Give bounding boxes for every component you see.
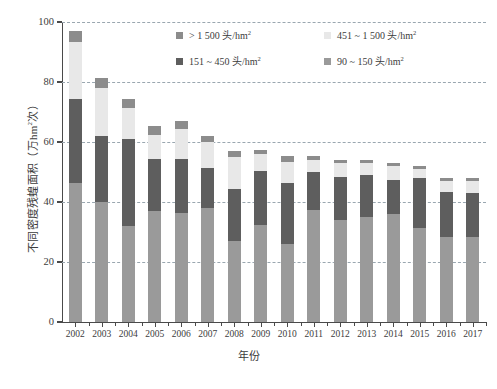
chart-legend: > 1 500 头/hm2451 ~ 1 500 头/hm2151 ~ 450 … — [176, 30, 446, 78]
bar-segment — [254, 150, 267, 155]
bar-segment — [281, 156, 294, 162]
legend-swatch-icon — [176, 58, 183, 65]
x-tick-label: 2003 — [92, 330, 111, 340]
x-tick-mark-minor — [142, 322, 143, 326]
x-tick-label: 2004 — [119, 330, 138, 340]
bar-segment — [148, 135, 161, 159]
bar-segment — [228, 241, 241, 322]
y-axis-title-main: 不同密度残蝗面积（万hm — [27, 125, 39, 253]
y-tick-mark — [57, 21, 62, 23]
x-tick-label: 2008 — [225, 330, 244, 340]
bar-segment — [307, 156, 320, 161]
x-tick-mark-minor — [460, 322, 461, 326]
x-tick-mark — [393, 322, 394, 327]
bar-segment — [307, 172, 320, 210]
bar-segment — [69, 99, 82, 183]
x-tick-label: 2009 — [251, 330, 270, 340]
x-tick-mark-minor — [407, 322, 408, 326]
bar-segment — [122, 226, 135, 322]
x-tick-mark-minor — [380, 322, 381, 326]
x-tick-label: 2006 — [172, 330, 191, 340]
x-tick-mark-minor — [301, 322, 302, 326]
legend-swatch-icon — [324, 58, 331, 65]
bar-segment — [175, 129, 188, 159]
bar-segment — [175, 159, 188, 213]
bar-segment — [413, 228, 426, 323]
bar-segment — [228, 157, 241, 189]
bar-segment — [360, 217, 373, 322]
x-tick-mark-minor — [195, 322, 196, 326]
bar-2004 — [122, 22, 135, 322]
x-tick-mark — [75, 322, 76, 327]
bar-segment — [122, 108, 135, 140]
bar-segment — [69, 31, 82, 42]
bar-segment — [360, 175, 373, 217]
x-tick-mark — [102, 322, 103, 327]
x-tick-mark — [234, 322, 235, 327]
legend-90-150[interactable]: 90 ~ 150 头/hm2 — [324, 56, 404, 67]
x-tick-mark-minor — [274, 322, 275, 326]
legend-label: 451 ~ 1 500 头/hm2 — [337, 30, 416, 41]
x-tick-mark — [287, 322, 288, 327]
x-tick-mark — [181, 322, 182, 327]
x-tick-mark-minor — [168, 322, 169, 326]
x-tick-label: 2013 — [357, 330, 376, 340]
figure-caption — [0, 372, 497, 389]
y-tick-mark — [57, 321, 62, 323]
y-axis-title: 不同密度残蝗面积（万hm2次） — [24, 26, 40, 326]
y-tick-label: 60 — [44, 137, 55, 148]
bar-segment — [413, 166, 426, 169]
bar-segment — [201, 136, 214, 142]
x-tick-mark — [155, 322, 156, 327]
bar-segment — [440, 192, 453, 237]
bar-segment — [254, 154, 267, 171]
bar-segment — [466, 193, 479, 237]
bar-segment — [281, 162, 294, 183]
bar-2002 — [69, 22, 82, 322]
bar-segment — [148, 159, 161, 212]
bar-segment — [281, 244, 294, 322]
x-tick-mark — [261, 322, 262, 327]
bar-segment — [95, 136, 108, 202]
x-tick-label: 2010 — [278, 330, 297, 340]
bar-segment — [122, 99, 135, 108]
y-axis-title-superscript: 2 — [26, 122, 34, 126]
x-tick-label: 2015 — [410, 330, 429, 340]
chart-figure: 不同密度残蝗面积（万hm2次） 020406080100 20022003200… — [0, 0, 497, 389]
legend-label: 151 ~ 450 头/hm2 — [189, 56, 261, 67]
bar-segment — [254, 171, 267, 225]
bar-2017 — [466, 22, 479, 322]
x-tick-mark — [367, 322, 368, 327]
bar-segment — [201, 168, 214, 209]
bar-segment — [466, 181, 479, 193]
bar-segment — [228, 151, 241, 157]
x-tick-label: 2005 — [145, 330, 164, 340]
legend-label: 90 ~ 150 头/hm2 — [337, 56, 404, 67]
bar-segment — [440, 178, 453, 181]
legend-451-1500[interactable]: 451 ~ 1 500 头/hm2 — [324, 30, 416, 41]
bar-segment — [466, 178, 479, 181]
y-axis-line — [62, 22, 63, 322]
legend-swatch-icon — [324, 32, 331, 39]
bar-segment — [334, 220, 347, 322]
bar-segment — [95, 88, 108, 136]
y-tick-label: 0 — [49, 317, 54, 328]
bar-segment — [334, 177, 347, 221]
bar-segment — [175, 213, 188, 323]
x-tick-mark-minor — [221, 322, 222, 326]
x-tick-mark — [420, 322, 421, 327]
legend-gt-1500[interactable]: > 1 500 头/hm2 — [176, 30, 251, 41]
bar-segment — [307, 210, 320, 323]
bar-segment — [440, 237, 453, 323]
x-tick-mark-minor — [354, 322, 355, 326]
x-tick-mark-minor — [327, 322, 328, 326]
legend-151-450[interactable]: 151 ~ 450 头/hm2 — [176, 56, 261, 67]
bar-segment — [387, 214, 400, 322]
x-tick-mark — [314, 322, 315, 327]
bar-segment — [95, 202, 108, 322]
x-tick-mark — [208, 322, 209, 327]
bar-segment — [360, 163, 373, 175]
bar-segment — [175, 121, 188, 129]
bar-segment — [281, 183, 294, 245]
x-tick-mark-minor — [486, 322, 487, 326]
